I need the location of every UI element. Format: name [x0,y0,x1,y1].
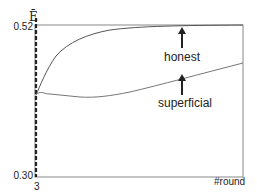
x-axis-label: #round [214,176,245,187]
y-tick-bottom: 0.30 [14,170,34,181]
superficial-label: superficial [158,96,212,110]
honest-curve [36,25,243,95]
y-tick-top: 0.52 [14,21,34,32]
honest-arrow-head [178,27,186,34]
line-chart: Ē 0.52 0.30 3 #round honest superficial [0,0,257,192]
x-tick-start: 3 [34,181,40,192]
superficial-curve [36,63,243,97]
honest-label: honest [164,50,201,64]
superficial-arrow-head [178,74,186,81]
